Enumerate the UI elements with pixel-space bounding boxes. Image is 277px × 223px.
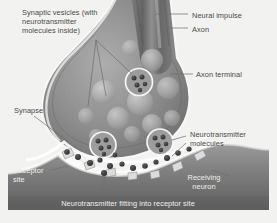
label-neurotransmitter-molecules: Neurotransmitter molecules: [190, 130, 276, 148]
label-synapse: Synapse: [14, 106, 43, 115]
synapse-diagram: Synaptic vesicles (with neurotransmitter…: [0, 0, 277, 223]
label-axon-terminal: Axon terminal: [196, 70, 242, 79]
label-synaptic-vesicles: Synaptic vesicles (with neurotransmitter…: [22, 8, 142, 36]
molecule-in-receptor: [101, 170, 107, 176]
circled-vesicle-left-fusing: [90, 132, 116, 158]
label-caption-bottom: Neurotransmitter fitting into receptor s…: [28, 199, 228, 208]
label-axon: Axon: [192, 25, 209, 34]
circled-vesicle-right-fusing: [147, 129, 173, 155]
label-receptor-site: Receptor site: [13, 166, 61, 184]
circled-vesicle-top: [126, 69, 153, 96]
label-neural-impulse: Neural impulse: [192, 11, 242, 20]
label-receiving-neuron: Receiving neuron: [176, 173, 232, 191]
